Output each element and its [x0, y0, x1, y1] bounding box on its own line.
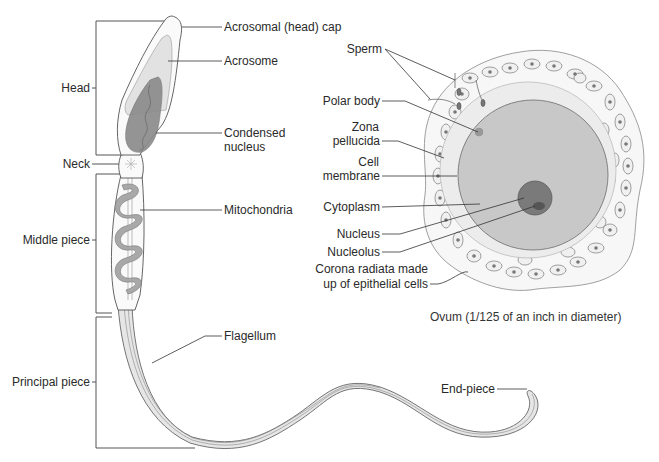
label-mitochondria: Mitochondria	[224, 203, 293, 217]
label-neck: Neck	[30, 157, 90, 171]
ovum-illustration	[382, 49, 644, 290]
label-zona-pellucida-line2: pellucida	[300, 134, 380, 148]
flagellum-shape	[118, 305, 538, 449]
label-acrosome: Acrosome	[224, 54, 278, 68]
label-zona-pellucida-line1: Zona	[300, 120, 379, 134]
label-cytoplasm: Cytoplasm	[300, 200, 380, 214]
label-condensed-nucleus-line1: Condensed	[224, 126, 285, 140]
label-sperm: Sperm	[300, 42, 382, 56]
label-nucleolus: Nucleolus	[300, 245, 380, 259]
label-corona-line1: Corona radiata made	[300, 262, 428, 276]
label-head: Head	[30, 81, 90, 95]
label-flagellum: Flagellum	[224, 329, 276, 343]
polar-body-shape	[475, 128, 483, 136]
label-condensed-nucleus-line2: nucleus	[224, 140, 265, 154]
cytoplasm-shape	[458, 100, 608, 250]
label-end-piece: End-piece	[410, 382, 495, 396]
label-cell-membrane-line2: membrane	[300, 169, 380, 183]
label-cell-membrane-line1: Cell	[300, 155, 379, 169]
label-principal-piece: Principal piece	[0, 375, 90, 389]
label-acrosomal-cap: Acrosomal (head) cap	[224, 20, 341, 34]
ovum-caption: Ovum (1/125 of an inch in diameter)	[430, 310, 621, 324]
label-polar-body: Polar body	[300, 94, 380, 108]
label-nucleus: Nucleus	[300, 227, 380, 241]
label-corona-line2: up of epithelial cells	[300, 277, 428, 291]
label-middle-piece: Middle piece	[0, 233, 90, 247]
